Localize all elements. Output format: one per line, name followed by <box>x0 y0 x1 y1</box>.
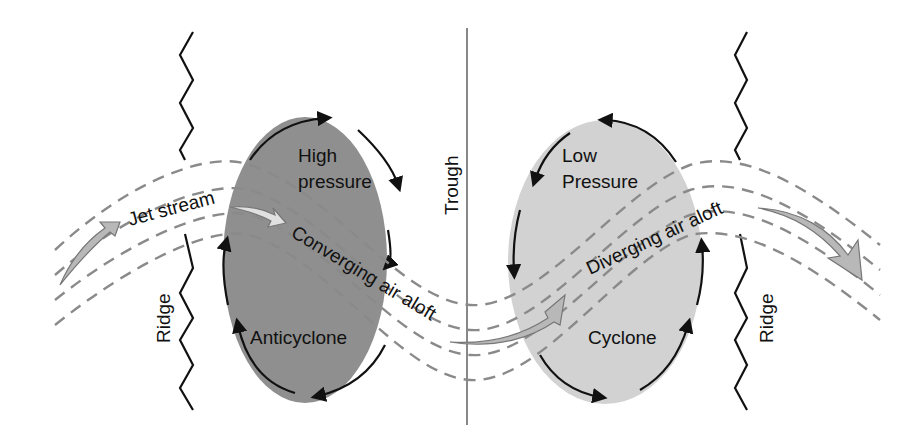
jet-stream-label: Jet stream <box>126 187 217 230</box>
trough-label: Trough <box>441 156 462 216</box>
jet-stream-diagram: Jet stream High pressure Anticyclone Con… <box>0 0 917 438</box>
high-label-line2: pressure <box>298 171 372 192</box>
flow-arrows <box>60 207 862 345</box>
ridge-left-label: Ridge <box>153 293 174 343</box>
flow-arrow-icon <box>60 222 120 285</box>
ridge-left-line <box>180 32 193 160</box>
cyclone-label: Cyclone <box>588 327 657 348</box>
ridge-right-line <box>735 32 747 160</box>
ridge-left-line-lower <box>180 234 193 410</box>
ridge-right-line-lower <box>735 234 747 410</box>
high-label-line1: High <box>298 145 337 166</box>
circulation-arrow-icon <box>388 230 391 265</box>
low-label-line1: Low <box>562 145 597 166</box>
low-label-line2: Pressure <box>562 171 638 192</box>
ridge-right-label: Ridge <box>756 293 777 343</box>
anticyclone-label: Anticyclone <box>250 327 347 348</box>
